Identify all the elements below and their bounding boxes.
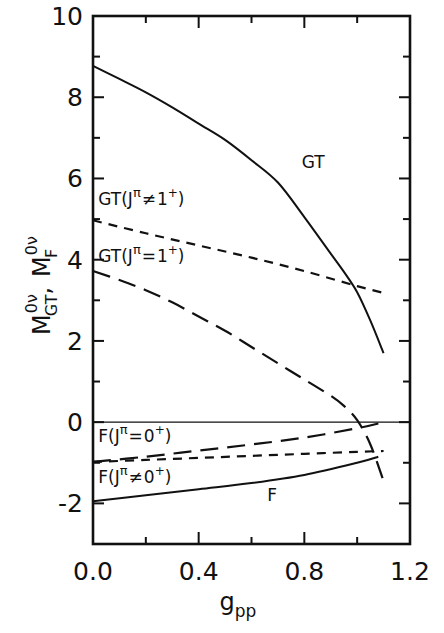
curve-annotations: GTGT(Jπ≠1+)GT(Jπ=1+)F(Jπ=0+)F(Jπ≠0+)F: [98, 152, 325, 505]
plot-frame: [93, 16, 410, 544]
annotation-label: GT(Jπ=1+): [98, 242, 184, 266]
curve-gt-j-1: [93, 271, 384, 481]
y-axis-title: M0νGT,M0νF: [22, 236, 61, 335]
x-axis-title-main: g: [220, 588, 235, 616]
annotation-label: F(Jπ≠0+): [98, 463, 171, 487]
annotation-label: F: [267, 485, 277, 505]
y-axis-title-m1: M: [28, 314, 56, 335]
x-tick-label: 0.4: [179, 557, 219, 586]
y-axis-title-separator: ,: [28, 287, 56, 295]
x-tick-label: 0.8: [284, 557, 324, 586]
annotation-label: GT(Jπ≠1+): [98, 185, 184, 209]
curve-gt: [93, 66, 384, 353]
y-tick-label: 4: [67, 246, 83, 275]
y-tick-label: -2: [58, 489, 83, 518]
x-tick-label: 1.2: [390, 557, 430, 586]
x-axis-title-subscript: pp: [235, 601, 257, 621]
chart-canvas: 1086420-20.00.40.81.2 GTGT(Jπ≠1+)GT(Jπ=1…: [0, 0, 444, 633]
x-tick-label: 0.0: [73, 557, 113, 586]
svg-text:M0νGT,M0νF: M0νGT,M0νF: [22, 236, 61, 335]
annotation-label: F(Jπ=0+): [98, 422, 171, 446]
y-axis-title-sub1: GT: [42, 294, 61, 316]
axis-tick-labels: 1086420-20.00.40.81.2: [51, 2, 430, 586]
y-tick-label: 6: [67, 164, 83, 193]
y-tick-label: 10: [51, 2, 83, 31]
y-axis-title-sup1: 0ν: [22, 294, 41, 313]
y-axis-title-m2: M: [28, 256, 56, 277]
axis-ticks: [93, 16, 410, 544]
annotation-label: GT: [302, 152, 326, 172]
y-tick-label: 0: [67, 408, 83, 437]
y-tick-label: 8: [67, 83, 83, 112]
y-tick-label: 2: [67, 327, 83, 356]
curve-f-j-0: [93, 451, 384, 462]
y-axis-title-sub2: F: [42, 249, 61, 258]
y-axis-title-sup2: 0ν: [22, 236, 41, 255]
x-axis-title: gpp: [220, 588, 257, 621]
